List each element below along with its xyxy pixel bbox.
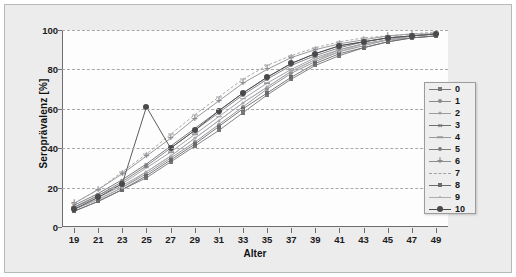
- legend-item-1[interactable]: 1: [425, 95, 475, 107]
- data-point: [240, 90, 246, 96]
- x-tick: [291, 228, 292, 233]
- legend-label: 10: [455, 203, 465, 215]
- data-point: [288, 55, 294, 56]
- x-tick: [315, 228, 316, 233]
- y-axis-labels: Seroprävalenz [%] 020406080100: [30, 30, 58, 227]
- data-point: [217, 125, 221, 129]
- data-point: [194, 137, 196, 139]
- data-point: [217, 128, 221, 132]
- data-point: [240, 79, 246, 80]
- legend-item-2[interactable]: 2: [425, 107, 475, 119]
- data-point: [288, 60, 294, 66]
- legend-marker-icon: [427, 143, 453, 155]
- data-point: [266, 86, 268, 88]
- data-point: [314, 59, 316, 61]
- data-point: +: [191, 115, 199, 123]
- x-tick-label: 29: [189, 234, 200, 245]
- y-tick: [57, 69, 62, 70]
- legend-item-9[interactable]: 9: [425, 191, 475, 203]
- legend-label: 2: [455, 107, 460, 119]
- data-point: [143, 154, 149, 155]
- legend-marker-icon: [427, 131, 453, 143]
- legend-item-0[interactable]: 0: [425, 83, 475, 95]
- data-point: [144, 164, 148, 168]
- legend-item-5[interactable]: 5: [425, 143, 475, 155]
- x-tick-label: 47: [407, 234, 418, 245]
- data-point: [338, 51, 340, 53]
- data-point: [290, 70, 292, 72]
- data-point: [71, 203, 77, 204]
- x-tick-label: 49: [431, 234, 442, 245]
- data-point: [71, 206, 77, 212]
- legend-marker-icon: ×: [427, 119, 453, 131]
- data-point: [409, 33, 415, 39]
- data-point: +: [167, 134, 175, 142]
- x-tick: [195, 228, 196, 233]
- gridline-y: [62, 188, 448, 189]
- data-point: [218, 120, 220, 122]
- data-point: +: [239, 79, 247, 87]
- x-axis: Alter 19212325272931333537394143454749: [62, 228, 448, 252]
- x-tick: [74, 228, 75, 233]
- y-tick: [57, 30, 62, 31]
- x-axis-title: Alter: [62, 248, 448, 259]
- data-point: [119, 181, 125, 187]
- legend-label: 9: [455, 191, 460, 203]
- x-tick: [122, 228, 123, 233]
- legend-marker-icon: [427, 167, 453, 179]
- legend-marker-icon: [427, 83, 453, 95]
- legend-item-6[interactable]: +6: [425, 155, 475, 167]
- data-point: [264, 74, 270, 80]
- data-point: [95, 189, 101, 190]
- legend-label: 3: [455, 119, 460, 131]
- data-point: [192, 114, 198, 115]
- x-tick: [171, 228, 172, 233]
- legend-marker-icon: +: [427, 155, 453, 167]
- gridline-y: [62, 109, 448, 110]
- data-point: [216, 116, 222, 118]
- legend-marker-icon: [427, 95, 453, 107]
- data-point: [144, 174, 148, 178]
- data-point: [312, 51, 318, 57]
- x-tick-label: 31: [214, 234, 225, 245]
- x-tick-label: 37: [286, 234, 297, 245]
- data-point: +: [215, 97, 223, 105]
- x-tick: [219, 228, 220, 233]
- x-tick-label: 23: [117, 234, 128, 245]
- data-point: [361, 39, 367, 45]
- data-point: [145, 171, 147, 173]
- x-tick-label: 19: [69, 234, 80, 245]
- data-point: [241, 111, 245, 115]
- legend-item-3[interactable]: ×3: [425, 119, 475, 131]
- x-tick: [412, 228, 413, 233]
- legend-label: 8: [455, 179, 460, 191]
- data-point: [216, 96, 222, 97]
- data-point: [385, 35, 391, 41]
- data-point: [312, 47, 318, 48]
- legend-item-10[interactable]: 10: [425, 203, 475, 215]
- x-tick-label: 45: [382, 234, 393, 245]
- legend-item-8[interactable]: 8: [425, 179, 475, 191]
- legend-label: 1: [455, 95, 460, 107]
- legend-item-4[interactable]: 4: [425, 131, 475, 143]
- x-tick: [146, 228, 147, 233]
- data-point: [240, 98, 246, 100]
- legend-item-7[interactable]: 7: [425, 167, 475, 179]
- data-point: [265, 91, 269, 95]
- x-tick-label: 43: [358, 234, 369, 245]
- data-point: [433, 31, 439, 37]
- gridline-y: [62, 148, 448, 149]
- x-tick-label: 27: [165, 234, 176, 245]
- x-tick-label: 25: [141, 234, 152, 245]
- legend-marker-icon: [427, 191, 453, 203]
- legend-label: 6: [455, 155, 460, 167]
- series-markers: ××××××××××××××××++++++++++++++++: [62, 30, 448, 227]
- plot-area: ××××××××××××××××++++++++++++++++: [62, 30, 448, 227]
- legend-label: 0: [455, 83, 460, 95]
- data-point: [336, 43, 342, 49]
- data-point: [192, 134, 198, 136]
- x-tick: [364, 228, 365, 233]
- x-tick: [339, 228, 340, 233]
- data-point: [168, 134, 174, 135]
- x-tick: [98, 228, 99, 233]
